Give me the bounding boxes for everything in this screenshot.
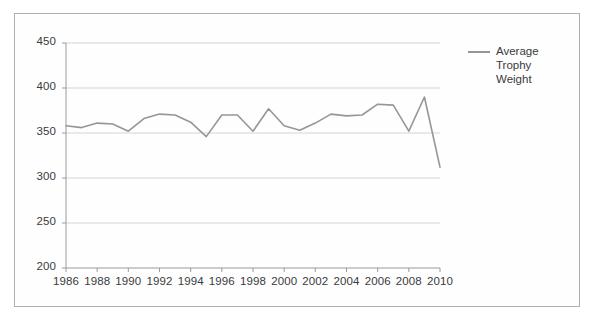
legend: Average Trophy Weight [468,44,572,86]
y-tick-label-400: 400 [22,80,56,92]
legend-label-line2: Weight [496,72,570,86]
series-line-0 [66,97,440,167]
y-tick-label-450: 450 [22,35,56,47]
legend-label: Average Trophy Weight [496,44,570,86]
axis-ticks [62,43,440,272]
data-series-group [66,97,440,167]
chart-page: 200250300350400450 198619881990199219941… [0,0,594,319]
y-tick-label-200: 200 [22,260,56,272]
legend-item: Average Trophy Weight [468,44,572,86]
y-tick-label-300: 300 [22,170,56,182]
y-tick-label-350: 350 [22,125,56,137]
y-tick-label-250: 250 [22,215,56,227]
gridlines [66,43,440,223]
legend-line-swatch [468,51,490,53]
x-tick-label-2010: 2010 [420,275,460,287]
axes [66,43,440,268]
legend-label-line1: Average Trophy [496,44,570,72]
